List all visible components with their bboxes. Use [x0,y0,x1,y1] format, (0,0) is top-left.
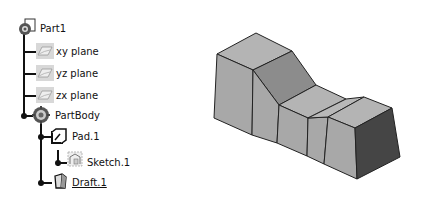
3d-part-model[interactable] [0,0,422,200]
model-face [324,117,357,179]
